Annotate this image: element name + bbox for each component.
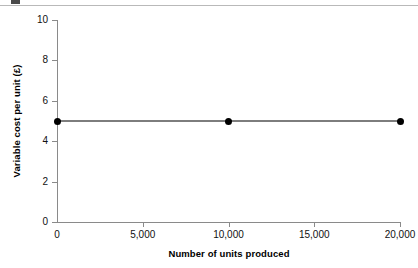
y-tick-mark [52, 182, 57, 183]
y-tick-label: 10 [37, 15, 48, 25]
y-tick-mark [52, 141, 57, 142]
y-tick-mark [52, 222, 57, 223]
plot-area: 0246810 05,00010,00015,00020,000 [57, 20, 400, 222]
y-tick-label: 4 [42, 136, 48, 146]
y-tick-mark [52, 101, 57, 102]
caption-remnant-glyph [11, 0, 20, 4]
series-line-segment [229, 120, 401, 122]
x-tick-label: 20,000 [385, 230, 416, 240]
x-tick-mark [143, 222, 144, 227]
data-point-marker [397, 118, 404, 125]
y-tick-label: 8 [42, 55, 48, 65]
y-tick-label: 6 [42, 96, 48, 106]
x-tick-mark [314, 222, 315, 227]
y-tick-mark [52, 20, 57, 21]
x-tick-label: 15,000 [299, 230, 330, 240]
y-tick-label: 0 [42, 217, 48, 227]
y-tick-label: 2 [42, 177, 48, 187]
x-tick-mark [229, 222, 230, 227]
x-tick-label: 0 [54, 230, 60, 240]
chart-figure: Variable cost per unit (£) 0246810 05,00… [0, 0, 418, 268]
x-axis-title: Number of units produced [57, 248, 401, 259]
x-tick-label: 10,000 [213, 230, 244, 240]
x-tick-label: 5,000 [130, 230, 155, 240]
y-axis-title: Variable cost per unit (£) [9, 20, 24, 222]
data-point-marker [54, 118, 61, 125]
series-line-segment [57, 120, 229, 122]
header-divider [0, 5, 418, 6]
x-tick-mark [400, 222, 401, 227]
y-tick-mark [52, 60, 57, 61]
data-point-marker [225, 118, 232, 125]
